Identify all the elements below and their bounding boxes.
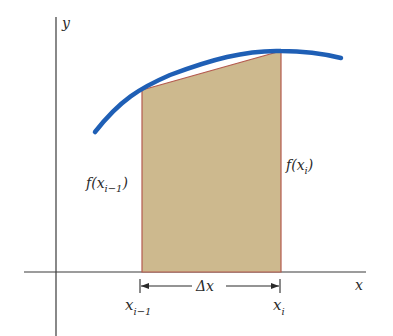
- trapezoid-area: [142, 51, 281, 272]
- x-i-label: xi: [273, 296, 285, 317]
- x-axis-label: x: [355, 277, 363, 293]
- f-x-i-minus-1-label: f(xi−1): [85, 175, 128, 194]
- f-x-i-label: f(xi): [285, 157, 313, 176]
- delta-x-label: Δx: [195, 278, 214, 294]
- x-i-minus-1-label: xi−1: [125, 296, 151, 317]
- trapezoid-diagram: y x f(xi−1) f(xi) Δx xi−1 xi: [0, 0, 393, 336]
- y-axis-label: y: [61, 15, 71, 31]
